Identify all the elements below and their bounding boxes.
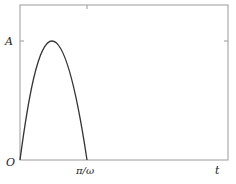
x-tick-label: π/ω — [75, 165, 94, 176]
origin-label: O — [6, 156, 15, 169]
y-label-A: A — [4, 35, 13, 48]
x-axis-label: t — [215, 164, 220, 177]
plot-frame — [20, 5, 228, 160]
half-sine-curve — [20, 41, 87, 160]
pulse-diagram: A O π/ω t — [0, 0, 236, 184]
